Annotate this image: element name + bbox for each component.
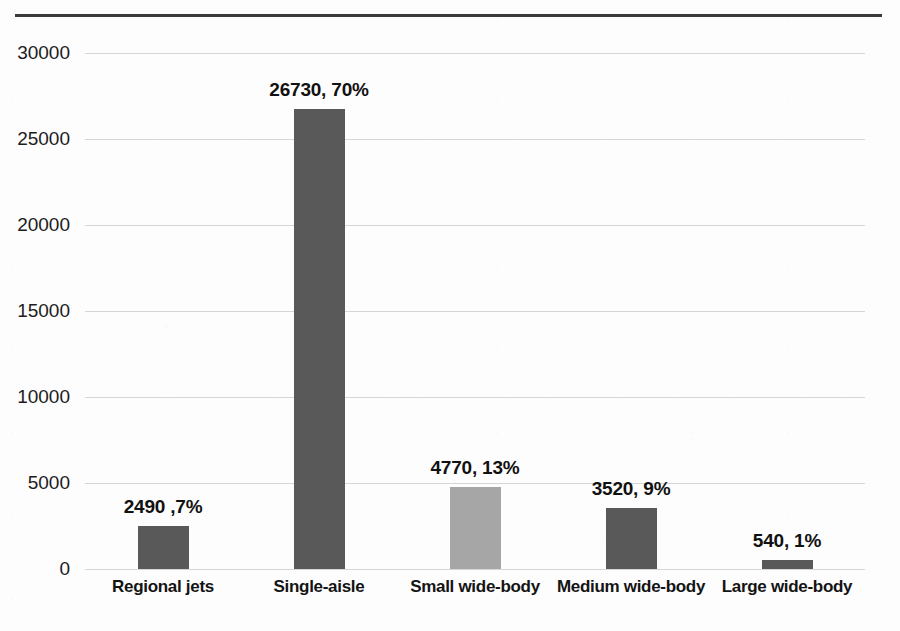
bar — [606, 508, 657, 569]
bar — [450, 487, 501, 569]
y-axis-tick-labels: 050001000015000200002500030000 — [0, 53, 70, 569]
category-label: Single-aisle — [241, 578, 397, 595]
bar-value-label: 540, 1% — [753, 531, 821, 550]
bar — [138, 526, 189, 569]
y-tick-label-25000: 25000 — [17, 129, 70, 148]
top-horizontal-rule — [15, 14, 882, 17]
category-label: Regional jets — [85, 578, 241, 595]
category-label: Medium wide-body — [553, 578, 709, 595]
bar — [294, 109, 345, 569]
y-tick-label-10000: 10000 — [17, 387, 70, 406]
bar-group: 2490 ,7% — [85, 53, 241, 569]
bar-group: 540, 1% — [709, 53, 865, 569]
y-tick-label-5000: 5000 — [28, 473, 70, 492]
bar-chart-figure: 050001000015000200002500030000 2490 ,7%2… — [0, 0, 900, 631]
bar-value-label: 2490 ,7% — [124, 497, 203, 516]
y-tick-label-15000: 15000 — [17, 301, 70, 320]
category-label: Small wide-body — [397, 578, 553, 595]
bar-value-label: 3520, 9% — [592, 479, 671, 498]
y-tick-label-30000: 30000 — [17, 43, 70, 62]
x-axis-category-labels: Regional jetsSingle-aisleSmall wide-body… — [85, 578, 865, 608]
bar-group: 3520, 9% — [553, 53, 709, 569]
category-label: Large wide-body — [709, 578, 865, 595]
bar-group: 26730, 70% — [241, 53, 397, 569]
gridline-0 — [85, 569, 865, 570]
bar-group: 4770, 13% — [397, 53, 553, 569]
y-tick-label-20000: 20000 — [17, 215, 70, 234]
plot-area: 2490 ,7%26730, 70%4770, 13%3520, 9%540, … — [85, 53, 865, 569]
bar — [762, 560, 813, 569]
y-tick-label-0: 0 — [59, 559, 70, 578]
bar-value-label: 26730, 70% — [269, 80, 368, 99]
bar-value-label: 4770, 13% — [430, 458, 519, 477]
